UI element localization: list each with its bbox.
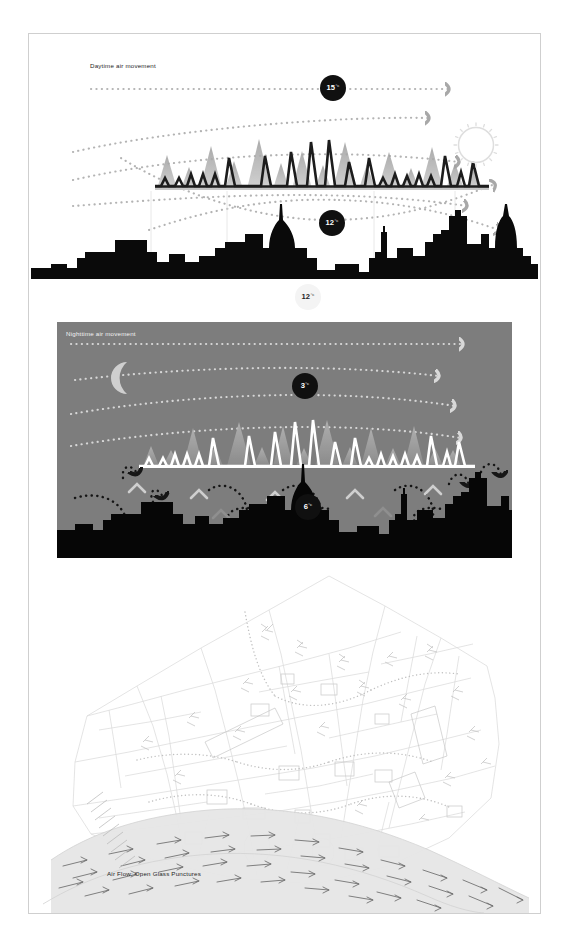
nighttime-panel: Nighttime air movement 3°c 6°c [57, 322, 512, 558]
map-caption: Air Flow: Open Glass Punctures [107, 870, 201, 877]
nighttime-airflow-lines [71, 344, 463, 446]
nighttime-panel-label: Nighttime air movement [66, 330, 136, 337]
nighttime-temp-badge-upper-air: 3°c [292, 373, 318, 399]
nighttime-city-skyline [57, 464, 512, 558]
nighttime-temp-badge-street: 6°c [295, 494, 321, 520]
daytime-temp-badge-street: 12°c [295, 284, 321, 310]
badge-unit: °c [310, 293, 314, 297]
daytime-panel: Daytime air movement 15°c 12°c 12°c [29, 34, 540, 313]
air-flow-map [29, 566, 540, 913]
badge-unit: °c [305, 382, 309, 386]
badge-value: 6 [304, 503, 308, 511]
map-panel: Air Flow: Open Glass Punctures [29, 566, 540, 913]
daytime-temp-badge-upper-air: 15°c [320, 75, 346, 101]
poster-root: Daytime air movement 15°c 12°c 12°c [0, 0, 569, 949]
daytime-panel-label: Daytime air movement [90, 62, 156, 69]
sun-icon [454, 123, 498, 167]
map-flow-dotted-paths [137, 612, 459, 813]
badge-value: 3 [301, 382, 305, 390]
moon-icon [111, 362, 127, 394]
nighttime-diagram [57, 322, 512, 558]
daytime-diagram [29, 34, 540, 313]
badge-value: 15 [327, 84, 335, 92]
badge-value: 12 [326, 219, 334, 227]
badge-unit: °c [334, 219, 338, 223]
daytime-city-skyline [31, 204, 538, 279]
map-river-band [51, 809, 529, 913]
badge-value: 12 [302, 293, 310, 301]
badge-unit: °c [335, 84, 339, 88]
daytime-temp-badge-canopy: 12°c [319, 210, 345, 236]
badge-unit: °c [308, 503, 312, 507]
